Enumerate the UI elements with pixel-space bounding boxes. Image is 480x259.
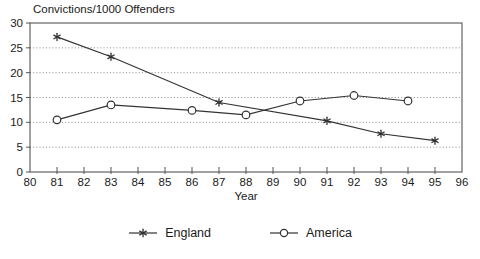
marker-america-83 xyxy=(107,101,115,109)
x-axis-title: Year xyxy=(234,190,257,202)
chart-legend: England America xyxy=(0,226,480,240)
x-tick-label-86: 86 xyxy=(186,176,199,188)
marker-america-94 xyxy=(404,97,412,105)
y-tick-label-0: 0 xyxy=(17,166,23,178)
marker-england-83 xyxy=(108,53,114,60)
america-circle-marker-icon xyxy=(269,227,299,239)
england-star-marker-icon xyxy=(128,227,158,239)
chart-page: Convictions/1000 Offenders 0510152025308… xyxy=(0,0,480,259)
x-tick-label-80: 80 xyxy=(24,176,37,188)
x-tick-label-96: 96 xyxy=(456,176,469,188)
legend-item-america: America xyxy=(269,226,352,240)
y-tick-label-25: 25 xyxy=(10,42,23,54)
marker-america-92 xyxy=(350,92,358,100)
x-tick-label-91: 91 xyxy=(321,176,334,188)
legend-label-america: America xyxy=(306,226,352,240)
y-tick-label-10: 10 xyxy=(10,116,23,128)
x-tick-label-93: 93 xyxy=(375,176,388,188)
x-tick-label-87: 87 xyxy=(213,176,226,188)
marker-england-81 xyxy=(54,33,60,40)
marker-america-88 xyxy=(242,111,250,119)
series-line-england xyxy=(57,37,435,141)
x-tick-label-95: 95 xyxy=(429,176,442,188)
x-tick-label-90: 90 xyxy=(294,176,307,188)
y-tick-label-15: 15 xyxy=(10,92,23,104)
x-tick-label-81: 81 xyxy=(51,176,64,188)
y-tick-label-30: 30 xyxy=(10,17,23,29)
marker-america-90 xyxy=(296,97,304,105)
line-chart-plot: 0510152025308081828384858687888990919293… xyxy=(0,0,480,206)
x-tick-label-92: 92 xyxy=(348,176,361,188)
marker-america-86 xyxy=(188,107,196,115)
x-tick-label-84: 84 xyxy=(132,176,145,188)
legend-label-england: England xyxy=(165,226,211,240)
x-tick-label-82: 82 xyxy=(78,176,91,188)
y-tick-label-20: 20 xyxy=(10,67,23,79)
marker-america-81 xyxy=(53,116,61,124)
x-tick-label-83: 83 xyxy=(105,176,118,188)
y-tick-label-5: 5 xyxy=(17,141,23,153)
x-tick-label-94: 94 xyxy=(402,176,415,188)
x-tick-label-85: 85 xyxy=(159,176,172,188)
x-tick-label-88: 88 xyxy=(240,176,253,188)
x-tick-label-89: 89 xyxy=(267,176,280,188)
legend-item-england: England xyxy=(128,226,211,240)
